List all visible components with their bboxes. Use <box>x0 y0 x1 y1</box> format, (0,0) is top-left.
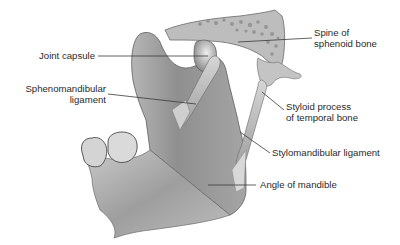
leader-styloid <box>262 92 284 110</box>
label-line: Spine of <box>314 27 377 38</box>
label-styloid-process: Styloid process of temporal bone <box>286 101 358 123</box>
label-line: Sphenomandibular <box>5 83 106 94</box>
label-line: ligament <box>5 94 106 105</box>
label-stylomandibular-ligament: Stylomandibular ligament <box>272 147 380 158</box>
label-angle-of-mandible: Angle of mandible <box>260 179 337 190</box>
label-joint-capsule: Joint capsule <box>28 50 95 61</box>
mandible <box>84 32 246 238</box>
label-spine-of-sphenoid-bone: Spine of sphenoid bone <box>314 27 377 49</box>
label-line: Joint capsule <box>28 50 95 61</box>
label-line: Stylomandibular ligament <box>272 147 380 158</box>
anatomy-figure: Joint capsule Sphenomandibular ligament … <box>0 0 400 245</box>
label-line: sphenoid bone <box>314 38 377 49</box>
label-sphenomandibular-ligament: Sphenomandibular ligament <box>5 83 106 105</box>
label-line: of temporal bone <box>286 112 358 123</box>
stylomandibular-ligament-shape <box>236 80 267 167</box>
label-line: Angle of mandible <box>260 179 337 190</box>
label-line: Styloid process <box>286 101 358 112</box>
